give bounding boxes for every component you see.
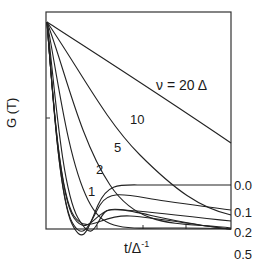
x-axis-label: t/Δ-1: [124, 240, 149, 255]
x-axis-label-sup: -1: [141, 239, 149, 249]
chart-plot: [0, 0, 266, 267]
curve-label-nu5: 5: [114, 141, 121, 154]
curve-label-nu2: 2: [96, 163, 103, 176]
x-axis-label-main: t/Δ: [124, 240, 141, 256]
curve-label-nu20: ν = 20 Δ: [156, 78, 207, 92]
right-label-0-0: 0.0: [234, 179, 252, 192]
curve-0-0: [47, 22, 231, 235]
y-axis-label: G (T): [4, 98, 19, 128]
curve-label-nu1: 1: [88, 185, 95, 198]
right-label-0-5: 0.5: [234, 248, 252, 261]
curve-label-nu10: 10: [130, 113, 144, 126]
right-label-0-1: 0.1: [234, 206, 252, 219]
right-label-0-2: 0.2: [234, 226, 252, 239]
